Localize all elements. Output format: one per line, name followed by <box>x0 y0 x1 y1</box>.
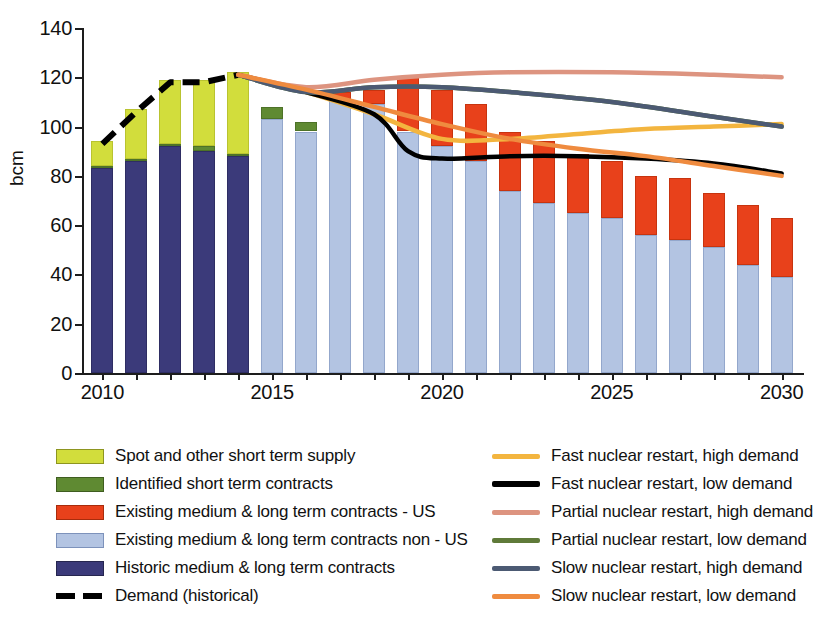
bar-segment <box>227 154 249 156</box>
legend-item[interactable]: Existing medium & long term contracts no… <box>56 526 446 554</box>
bar-2013[interactable] <box>193 28 215 373</box>
bar-2015[interactable] <box>261 28 283 373</box>
y-axis-tick <box>75 77 82 79</box>
legend-swatch <box>492 589 540 604</box>
legend-item[interactable]: Partial nuclear restart, low demand <box>492 526 833 554</box>
bar-2021[interactable] <box>465 28 487 373</box>
y-axis-tick-label: 0 <box>61 362 72 385</box>
bar-segment <box>431 90 453 147</box>
legend-item[interactable]: Partial nuclear restart, high demand <box>492 498 833 526</box>
bar-segment <box>635 235 657 373</box>
legend-swatch <box>56 449 104 464</box>
y-axis-title: bcm <box>6 150 28 186</box>
legend-item[interactable]: Fast nuclear restart, low demand <box>492 470 833 498</box>
bar-segment <box>363 104 385 373</box>
legend-swatch <box>492 505 540 520</box>
x-axis-tick <box>612 373 614 380</box>
y-axis-tick-label: 80 <box>50 164 72 187</box>
x-axis-tick <box>238 373 240 380</box>
legend-swatch <box>492 477 540 492</box>
legend-swatch <box>492 533 540 548</box>
bar-segment <box>601 161 623 218</box>
legend-item-label: Fast nuclear restart, high demand <box>551 446 799 466</box>
bar-2025[interactable] <box>601 28 623 373</box>
plot-area: 02040608010012014020102015202020252030 <box>82 28 802 373</box>
bar-segment <box>125 109 147 158</box>
y-axis-tick <box>75 127 82 129</box>
bar-segment <box>91 168 113 373</box>
x-axis-tick <box>272 373 274 380</box>
legend-swatch <box>56 505 104 520</box>
legend-swatch <box>56 533 104 548</box>
bar-2018[interactable] <box>363 28 385 373</box>
bar-2027[interactable] <box>669 28 691 373</box>
bar-segment <box>125 161 147 373</box>
bar-2026[interactable] <box>635 28 657 373</box>
bar-2030[interactable] <box>771 28 793 373</box>
bar-segment <box>465 104 487 161</box>
legend-item[interactable]: Fast nuclear restart, high demand <box>492 442 833 470</box>
bar-2028[interactable] <box>703 28 725 373</box>
bar-segment <box>567 213 589 373</box>
bar-2016[interactable] <box>295 28 317 373</box>
bar-2029[interactable] <box>737 28 759 373</box>
x-axis-tick <box>544 373 546 380</box>
legend-item[interactable]: Spot and other short term supply <box>56 442 446 470</box>
bar-segment <box>193 151 215 373</box>
legend-item-label: Existing medium & long term contracts no… <box>115 530 468 550</box>
y-axis-tick <box>75 28 82 30</box>
bar-segment <box>601 218 623 373</box>
bar-2023[interactable] <box>533 28 555 373</box>
y-axis-tick <box>75 225 82 227</box>
x-axis-tick <box>170 373 172 380</box>
bar-2014[interactable] <box>227 28 249 373</box>
bar-2024[interactable] <box>567 28 589 373</box>
bar-2012[interactable] <box>159 28 181 373</box>
bar-2017[interactable] <box>329 28 351 373</box>
y-axis-tick-label: 140 <box>40 17 72 40</box>
x-axis-tick-label: 2010 <box>81 381 124 404</box>
bar-2011[interactable] <box>125 28 147 373</box>
x-axis-tick <box>102 373 104 380</box>
legend-item[interactable]: Existing medium & long term contracts - … <box>56 498 446 526</box>
x-axis-tick <box>340 373 342 380</box>
bar-2019[interactable] <box>397 28 419 373</box>
bar-segment <box>669 178 691 240</box>
x-axis-tick <box>646 373 648 380</box>
legend-swatch <box>56 589 104 604</box>
bar-segment <box>363 90 385 105</box>
bar-segment <box>567 154 589 213</box>
bar-segment <box>635 176 657 235</box>
legend-item[interactable]: Slow nuclear restart, high demand <box>492 554 833 582</box>
bar-segment <box>295 122 317 132</box>
legend-item-label: Existing medium & long term contracts - … <box>115 502 435 522</box>
bar-segment <box>227 72 249 153</box>
bar-segment <box>91 166 113 168</box>
legend-item[interactable]: Historic medium & long term contracts <box>56 554 446 582</box>
bar-segment <box>397 77 419 131</box>
legend-item-label: Slow nuclear restart, high demand <box>551 558 802 578</box>
bar-2020[interactable] <box>431 28 453 373</box>
x-axis-tick <box>136 373 138 380</box>
legend-item[interactable]: Demand (historical) <box>56 582 446 610</box>
x-axis-tick <box>408 373 410 380</box>
legend-supply: Spot and other short term supplyIdentifi… <box>56 442 446 610</box>
bar-segment <box>125 159 147 161</box>
legend-item[interactable]: Slow nuclear restart, low demand <box>492 582 833 610</box>
bar-segment <box>669 240 691 373</box>
bar-segment <box>261 119 283 373</box>
x-axis-tick <box>374 373 376 380</box>
legend-swatch <box>492 561 540 576</box>
bar-segment <box>329 99 351 373</box>
bar-2010[interactable] <box>91 28 113 373</box>
x-axis-tick <box>510 373 512 380</box>
legend-swatch <box>56 477 104 492</box>
legend-item-label: Partial nuclear restart, low demand <box>551 530 807 550</box>
legend-item-label: Spot and other short term supply <box>115 446 355 466</box>
bar-segment <box>295 132 317 374</box>
chart-figure: bcm 020406080100120140201020152020202520… <box>0 0 833 626</box>
legend-item-label: Historic medium & long term contracts <box>115 558 395 578</box>
bar-2022[interactable] <box>499 28 521 373</box>
legend-item[interactable]: Identified short term contracts <box>56 470 446 498</box>
x-axis-tick-label: 2020 <box>420 381 463 404</box>
